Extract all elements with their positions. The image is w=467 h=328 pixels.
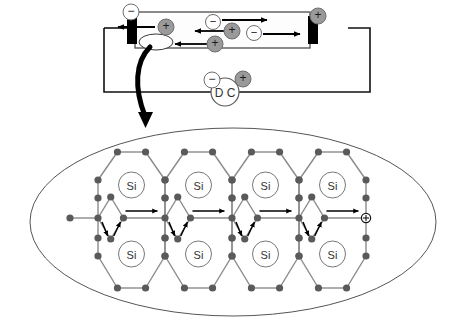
- lattice-bond: [98, 152, 117, 180]
- si-atom-label: Si: [194, 180, 204, 192]
- lattice-atom-node: [362, 194, 369, 201]
- lattice-bond: [299, 256, 318, 288]
- lattice-bond: [280, 256, 299, 288]
- hole-hop-arrow: [303, 222, 309, 236]
- carrier-hole-c5-label: +: [211, 36, 218, 50]
- terminal-negative-label: −: [127, 4, 134, 18]
- lattice-atom-node: [161, 194, 168, 201]
- lattice-atom-node: [187, 214, 194, 221]
- lattice-boundary-ellipse: [30, 128, 436, 316]
- lattice-bond: [178, 197, 191, 218]
- lattice-atom-node: [228, 252, 235, 259]
- lattice-bond: [146, 152, 165, 180]
- lattice-atom-node: [142, 148, 149, 155]
- lattice-atom-node: [343, 284, 350, 291]
- si-atom-label: Si: [127, 180, 137, 192]
- lattice-atom-node: [228, 214, 235, 221]
- lattice-atom-node: [114, 148, 121, 155]
- lattice-atom-node: [161, 252, 168, 259]
- dc-source-label: D C: [215, 86, 236, 100]
- lattice-atom-node: [66, 214, 73, 221]
- hole-hop-arrow: [114, 222, 121, 236]
- lattice-atom-node: [161, 234, 168, 241]
- lattice-atom-node: [362, 252, 369, 259]
- figure-root: −++−+−+D C−+ SiSiSiSiSiSiSiSi: [0, 0, 467, 328]
- lattice-atom-node: [241, 235, 248, 242]
- lattice-atom-node: [362, 176, 369, 183]
- si-atom-label: Si: [261, 180, 271, 192]
- lattice-atom-node: [94, 252, 101, 259]
- lattice-atom-node: [308, 235, 315, 242]
- lattice-atom-node: [315, 284, 322, 291]
- lattice-bond: [280, 152, 299, 180]
- lattice-atom-node: [181, 284, 188, 291]
- lattice-atom-node: [295, 176, 302, 183]
- lattice-atom-node: [295, 214, 302, 221]
- hole-hop-arrow: [181, 222, 188, 236]
- lattice-atom-node: [295, 194, 302, 201]
- hole-hop-arrow: [169, 222, 175, 236]
- callout-arrow-group: [138, 47, 153, 128]
- lattice-atom-node: [276, 284, 283, 291]
- terminal-positive-label: +: [314, 8, 321, 22]
- lattice-bond: [98, 256, 117, 288]
- lattice-bond: [213, 256, 232, 288]
- lattice-atom-node: [228, 176, 235, 183]
- lattice-atom-node: [107, 193, 114, 200]
- si-atom-label: Si: [261, 249, 271, 261]
- hole-hop-arrow: [102, 222, 108, 236]
- carrier-hole-c3-label: +: [228, 23, 235, 37]
- lattice-atom-node: [209, 284, 216, 291]
- si-atom-label: Si: [194, 249, 204, 261]
- lattice-group: SiSiSiSiSiSiSiSi: [30, 128, 436, 316]
- lattice-atom-node: [181, 148, 188, 155]
- lattice-bond: [232, 256, 251, 288]
- lattice-bond: [146, 256, 165, 288]
- lattice-atom-node: [308, 193, 315, 200]
- lattice-atom-node: [174, 193, 181, 200]
- lattice-bond: [245, 197, 258, 218]
- lattice-bond: [299, 152, 318, 180]
- lattice-bond: [111, 197, 124, 218]
- lattice-atom-node: [94, 176, 101, 183]
- lattice-atom-node: [315, 148, 322, 155]
- lattice-atom-node: [94, 214, 101, 221]
- lattice-atom-node: [107, 235, 114, 242]
- carrier-electron-c2-label: −: [210, 15, 217, 27]
- lattice-bond: [347, 256, 366, 288]
- lattice-atom-node: [161, 214, 168, 221]
- semiconductor-hole-conduction-diagram: −++−+−+D C−+ SiSiSiSiSiSiSiSi: [0, 0, 467, 328]
- lattice-bond: [232, 152, 251, 180]
- lattice-atom-node: [343, 148, 350, 155]
- lattice-bond: [312, 197, 325, 218]
- lattice-atom-node: [94, 234, 101, 241]
- lattice-atom-node: [114, 284, 121, 291]
- lattice-bond: [165, 152, 184, 180]
- lattice-atom-node: [276, 148, 283, 155]
- lattice-atom-node: [209, 148, 216, 155]
- lattice-atom-node: [248, 284, 255, 291]
- zoom-callout-arrow-head: [138, 112, 153, 128]
- carrier-hole-c1-label: +: [162, 19, 169, 33]
- lattice-atom-node: [362, 234, 369, 241]
- hole-hop-arrow: [248, 222, 255, 236]
- lattice-atom-node: [228, 234, 235, 241]
- lattice-atom-node: [161, 176, 168, 183]
- lattice-atom-node: [254, 214, 261, 221]
- hole-hop-arrow: [315, 222, 322, 236]
- lattice-bond: [347, 152, 366, 180]
- lattice-atom-node: [241, 193, 248, 200]
- si-atom-label: Si: [328, 180, 338, 192]
- hole-hop-arrow: [236, 222, 242, 236]
- hole-marker: [139, 34, 173, 50]
- lattice-atom-node: [295, 234, 302, 241]
- dc-source-positive-label: +: [239, 71, 246, 85]
- lattice-atom-node: [174, 235, 181, 242]
- dc-source-negative-label: −: [208, 72, 215, 86]
- carrier-electron-c4-label: −: [251, 26, 258, 38]
- lattice-atom-node: [295, 252, 302, 259]
- si-atom-label: Si: [127, 249, 137, 261]
- zoom-callout-arrow-shaft: [138, 47, 150, 116]
- lattice-atom-node: [142, 284, 149, 291]
- lattice-atom-node: [248, 148, 255, 155]
